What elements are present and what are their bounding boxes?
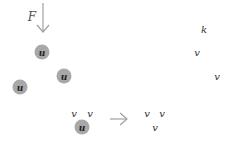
u-node: u — [13, 80, 28, 95]
v-label: v — [87, 109, 93, 119]
v-label: v — [194, 48, 200, 58]
u-node-label: u — [17, 82, 24, 92]
v-label: v — [159, 109, 165, 119]
force-label: F — [28, 11, 36, 23]
v-label: v — [152, 123, 158, 133]
u-node-label: u — [61, 71, 68, 81]
v-label: v — [214, 72, 220, 82]
v-label: v — [144, 109, 150, 119]
u-node-label: u — [39, 47, 46, 57]
u-node: u — [75, 120, 90, 135]
u-node: u — [35, 45, 50, 60]
force-arrow-icon — [37, 3, 49, 32]
u-node-label: u — [79, 122, 86, 132]
u-node: u — [57, 69, 72, 84]
k-label: k — [201, 25, 207, 35]
v-label: v — [71, 109, 77, 119]
transform-arrow-icon — [110, 113, 127, 125]
